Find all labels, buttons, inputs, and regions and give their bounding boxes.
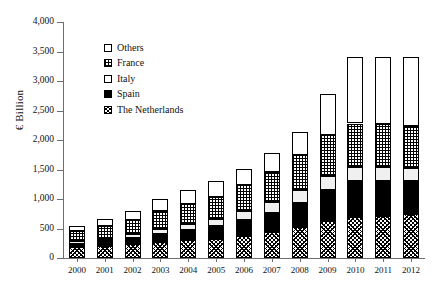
x-tick-mark [216, 258, 217, 262]
bar-segment-italy[interactable] [320, 176, 336, 190]
bar-2004[interactable] [180, 190, 196, 258]
bar-segment-others[interactable] [152, 199, 168, 211]
bar-segment-spain[interactable] [152, 234, 168, 242]
bar-segment-others[interactable] [292, 132, 308, 156]
x-tick-mark [77, 258, 78, 262]
x-tick-mark [244, 258, 245, 262]
legend-swatch-icon [104, 59, 112, 67]
y-tick-label: 2,500 [0, 106, 54, 116]
bar-2001[interactable] [97, 219, 113, 258]
bar-segment-france[interactable] [152, 211, 168, 229]
legend-swatch-icon [104, 75, 112, 83]
bar-segment-spain[interactable] [375, 181, 391, 216]
bar-segment-the-netherlands[interactable] [152, 242, 168, 258]
bar-segment-france[interactable] [208, 197, 224, 219]
bar-segment-france[interactable] [264, 172, 280, 202]
bar-segment-france[interactable] [69, 231, 85, 241]
bar-segment-italy[interactable] [125, 234, 141, 238]
bar-segment-italy[interactable] [69, 241, 85, 243]
x-tick-mark [355, 258, 356, 262]
bar-segment-spain[interactable] [403, 181, 419, 214]
bar-segment-italy[interactable] [208, 219, 224, 226]
x-tick-mark [328, 258, 329, 262]
bar-segment-italy[interactable] [375, 167, 391, 181]
y-tick-label: 4,000 [0, 17, 54, 27]
bar-segment-france[interactable] [97, 226, 113, 238]
bar-segment-the-netherlands[interactable] [403, 214, 419, 258]
bar-segment-italy[interactable] [347, 167, 363, 182]
bar-segment-the-netherlands[interactable] [236, 236, 252, 258]
x-tick-mark [383, 258, 384, 262]
bar-segment-others[interactable] [403, 57, 419, 125]
bar-segment-france[interactable] [320, 135, 336, 176]
bar-segment-spain[interactable] [180, 230, 196, 241]
bar-segment-spain[interactable] [320, 190, 336, 222]
legend-item-italy[interactable]: Italy [104, 71, 183, 87]
bar-segment-italy[interactable] [97, 239, 113, 242]
bar-2008[interactable] [292, 132, 308, 258]
bar-segment-spain[interactable] [208, 226, 224, 238]
bar-segment-spain[interactable] [236, 220, 252, 235]
bar-segment-others[interactable] [236, 169, 252, 186]
bar-segment-others[interactable] [125, 211, 141, 220]
legend-label: Italy [117, 74, 135, 84]
bar-segment-others[interactable] [180, 190, 196, 204]
legend-swatch-icon [104, 44, 112, 52]
bar-segment-others[interactable] [97, 219, 113, 226]
legend-item-others[interactable]: Others [104, 40, 183, 56]
bar-segment-france[interactable] [403, 126, 419, 168]
bar-segment-spain[interactable] [264, 213, 280, 232]
bar-segment-others[interactable] [320, 94, 336, 135]
bar-segment-spain[interactable] [69, 244, 85, 248]
bar-segment-france[interactable] [292, 155, 308, 190]
bar-2011[interactable] [375, 57, 391, 258]
bar-2012[interactable] [403, 57, 419, 258]
bar-segment-italy[interactable] [403, 168, 419, 182]
bar-segment-others[interactable] [347, 57, 363, 123]
bar-segment-spain[interactable] [292, 203, 308, 228]
bar-segment-italy[interactable] [236, 211, 252, 220]
bar-2002[interactable] [125, 211, 141, 258]
bar-segment-italy[interactable] [180, 224, 196, 230]
legend-item-spain[interactable]: Spain [104, 87, 183, 103]
bar-segment-the-netherlands[interactable] [292, 227, 308, 258]
bar-segment-the-netherlands[interactable] [69, 247, 85, 258]
bar-segment-france[interactable] [180, 204, 196, 224]
bar-segment-the-netherlands[interactable] [264, 232, 280, 258]
bar-2007[interactable] [264, 153, 280, 258]
bar-segment-the-netherlands[interactable] [375, 216, 391, 258]
y-tick-label: 0 [0, 253, 54, 263]
bar-segment-the-netherlands[interactable] [97, 246, 113, 258]
y-tick-label: 2,000 [0, 135, 54, 145]
bar-segment-italy[interactable] [152, 229, 168, 234]
bar-segment-france[interactable] [125, 220, 141, 235]
bar-segment-others[interactable] [375, 57, 391, 124]
bar-segment-the-netherlands[interactable] [180, 240, 196, 258]
legend-item-the-netherlands[interactable]: The Netherlands [104, 102, 183, 118]
bar-segment-the-netherlands[interactable] [125, 244, 141, 258]
bar-segment-spain[interactable] [97, 241, 113, 246]
bar-2000[interactable] [69, 226, 85, 258]
bar-segment-others[interactable] [69, 226, 85, 232]
bar-segment-the-netherlands[interactable] [347, 217, 363, 258]
bar-segment-italy[interactable] [264, 202, 280, 213]
bar-segment-others[interactable] [264, 153, 280, 172]
stacked-bar-chart: € Billion 05001,0001,5002,0002,5003,0003… [0, 0, 435, 299]
bar-2009[interactable] [320, 94, 336, 258]
bar-segment-italy[interactable] [292, 190, 308, 202]
bar-2005[interactable] [208, 181, 224, 258]
bar-2006[interactable] [236, 169, 252, 258]
bar-segment-spain[interactable] [125, 238, 141, 244]
bar-2010[interactable] [347, 57, 363, 258]
x-tick-mark [272, 258, 273, 262]
bar-segment-others[interactable] [208, 181, 224, 196]
bar-segment-france[interactable] [236, 185, 252, 211]
bar-segment-france[interactable] [375, 124, 391, 166]
bar-segment-the-netherlands[interactable] [320, 221, 336, 258]
bar-segment-spain[interactable] [347, 181, 363, 216]
legend-label: Spain [117, 89, 140, 99]
bar-segment-the-netherlands[interactable] [208, 239, 224, 258]
bar-2003[interactable] [152, 199, 168, 258]
bar-segment-france[interactable] [347, 124, 363, 167]
legend-item-france[interactable]: France [104, 56, 183, 72]
